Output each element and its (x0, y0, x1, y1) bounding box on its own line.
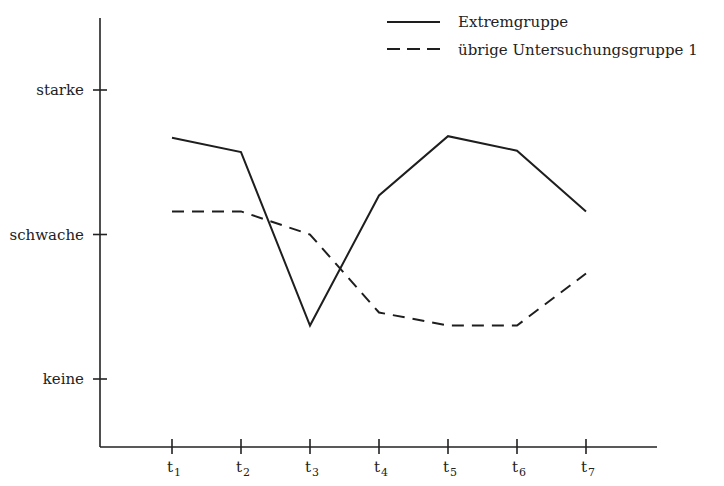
y-tick-label-schwache: schwache (10, 226, 85, 244)
series-layer (172, 136, 586, 325)
x-tick-label-t3: t3 (305, 458, 319, 479)
x-tick-label-t7: t7 (581, 458, 595, 479)
x-tick-label-t1: t1 (167, 458, 181, 479)
x-tick-label-t6: t6 (512, 458, 526, 479)
x-ticks: t1t2t3t4t5t6t7 (167, 439, 595, 479)
legend: Extremgruppe übrige Untersuchungsgruppe … (387, 13, 698, 59)
y-tick-label-keine: keine (43, 370, 84, 388)
axes (100, 18, 657, 447)
legend-label-extremgruppe: Extremgruppe (458, 13, 568, 31)
series-line-extremgruppe (172, 136, 586, 325)
series-line-uebrige-untersuchungsgruppe (172, 211, 586, 325)
x-tick-label-t4: t4 (374, 458, 388, 479)
legend-label-uebrige-untersuchungsgruppe: übrige Untersuchungsgruppe 1 (458, 41, 698, 59)
y-tick-label-starke: starke (36, 81, 84, 99)
legend-item-extremgruppe: Extremgruppe (387, 13, 568, 31)
line-chart: keineschwachestarke t1t2t3t4t5t6t7 Extre… (0, 0, 724, 486)
x-tick-label-t2: t2 (236, 458, 250, 479)
x-tick-label-t5: t5 (443, 458, 457, 479)
y-ticks: keineschwachestarke (10, 81, 107, 388)
legend-item-uebrige: übrige Untersuchungsgruppe 1 (387, 41, 698, 59)
